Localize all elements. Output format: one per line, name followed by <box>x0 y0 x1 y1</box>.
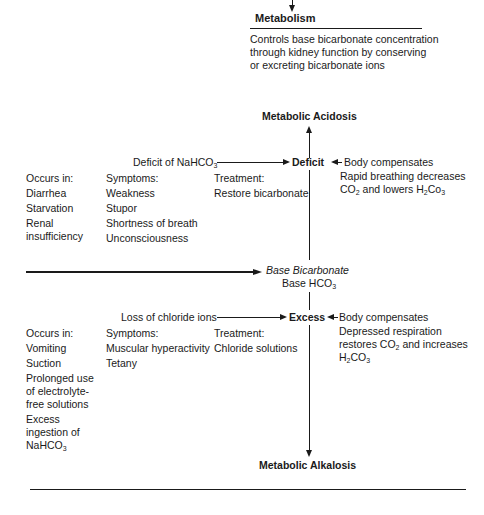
symptoms-header: Symptoms: <box>106 327 210 340</box>
treatment-header: Treatment: <box>214 327 297 340</box>
excess-cause: Loss of chloride ions <box>121 311 217 324</box>
excess-node: Excess <box>289 311 325 324</box>
symptom-item: Tetany <box>106 357 210 370</box>
occurs-in-item: NaHCO3 <box>26 439 94 452</box>
top-arrowhead-icon <box>289 5 295 12</box>
occurs-in-item: free solutions <box>26 398 94 411</box>
deficit-cause-line <box>217 162 283 163</box>
treatment-item: Chloride solutions <box>214 342 297 355</box>
base-bicarbonate-label: Base Bicarbonate <box>266 264 349 277</box>
alkalosis-occurs-in: Occurs in: Vomiting Suction Prolonged us… <box>26 327 94 454</box>
deficit-to-base-line <box>309 170 310 260</box>
alkalosis-treatment: Treatment: Chloride solutions <box>214 327 297 357</box>
compensation-line: Rapid breathing decreases <box>340 170 466 183</box>
occurs-in-item: ingestion of <box>26 426 94 439</box>
excess-compensation-title: Body compensates <box>339 311 428 324</box>
compensation-line: H2CO3 <box>339 351 468 364</box>
occurs-in-item: Starvation <box>26 202 83 215</box>
deficit-compensation-title: Body compensates <box>344 156 433 169</box>
down-arrowhead-icon <box>306 450 312 457</box>
occurs-in-item: Suction <box>26 357 94 370</box>
base-input-line <box>26 271 254 273</box>
treatment-header: Treatment: <box>214 172 309 185</box>
acidosis-vertical-line <box>309 130 310 158</box>
occurs-in-item: of electrolyte- <box>26 385 94 398</box>
occurs-in-header: Occurs in: <box>26 327 94 340</box>
alkalosis-vertical-line <box>309 325 310 454</box>
base-to-excess-line <box>309 292 310 310</box>
occurs-in-item: Vomiting <box>26 342 94 355</box>
description-line: or excreting bicarbonate ions <box>250 59 439 72</box>
occurs-in-header: Occurs in: <box>26 172 83 185</box>
acidosis-occurs-in: Occurs in: Diarrhea Starvation Renal ins… <box>26 172 83 245</box>
symptom-item: Stupor <box>106 202 198 215</box>
deficit-compensation-line <box>337 162 342 163</box>
deficit-compensation-text: Rapid breathing decreases CO2 and lowers… <box>340 170 466 196</box>
occurs-in-item: Prolonged use <box>26 372 94 385</box>
compensation-line: CO2 and lowers H2Co3 <box>340 183 466 196</box>
excess-compensation-line <box>333 317 338 318</box>
acidosis-title: Metabolic Acidosis <box>262 110 357 123</box>
right-arrowhead-icon <box>280 314 287 320</box>
compensation-line: Depressed respiration <box>339 325 468 338</box>
treatment-item: Restore bicarbonate <box>214 187 309 200</box>
excess-cause-line <box>217 317 280 318</box>
metabolism-title: Metabolism <box>255 12 316 25</box>
compensation-line: restores CO2 and increases <box>339 338 468 351</box>
alkalosis-symptoms: Symptoms: Muscular hyperactivity Tetany <box>106 327 210 372</box>
occurs-in-item: Renal <box>26 217 83 230</box>
excess-compensation-text: Depressed respiration restores CO2 and i… <box>339 325 468 364</box>
occurs-in-item: Excess <box>26 413 94 426</box>
symptom-item: Muscular hyperactivity <box>106 342 210 355</box>
symptom-item: Weakness <box>106 187 198 200</box>
symptom-item: Shortness of breath <box>106 217 198 230</box>
occurs-in-item: Diarrhea <box>26 187 83 200</box>
metabolism-rule <box>250 28 422 29</box>
metabolism-description: Controls base bicarbonate concentration … <box>250 33 439 72</box>
acidosis-symptoms: Symptoms: Weakness Stupor Shortness of b… <box>106 172 198 247</box>
base-arrowhead-icon <box>253 269 262 275</box>
symptom-item: Unconsciousness <box>106 232 198 245</box>
symptoms-header: Symptoms: <box>106 172 198 185</box>
acidosis-treatment: Treatment: Restore bicarbonate <box>214 172 309 202</box>
deficit-node: Deficit <box>292 156 324 169</box>
right-arrowhead-icon <box>283 159 290 165</box>
bottom-rule <box>30 489 466 490</box>
description-line: Controls base bicarbonate concentration <box>250 33 439 46</box>
base-hco3-label: Base HCO3 <box>282 277 336 290</box>
deficit-cause: Deficit of NaHCO3 <box>133 156 217 169</box>
alkalosis-title: Metabolic Alkalosis <box>259 459 356 472</box>
description-line: through kidney function by conserving <box>250 46 439 59</box>
occurs-in-item: insufficiency <box>26 230 83 243</box>
